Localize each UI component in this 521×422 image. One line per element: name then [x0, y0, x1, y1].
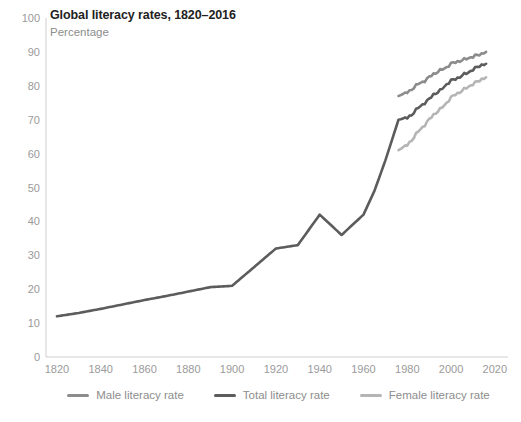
- legend-item[interactable]: Female literacy rate: [360, 389, 490, 401]
- x-axis-tick: 1880: [176, 364, 200, 375]
- y-axis-tick: 100: [6, 13, 40, 24]
- y-axis-tick: 10: [6, 318, 40, 329]
- y-axis-tick: 30: [6, 250, 40, 261]
- chart-legend: Male literacy rateTotal literacy rateFem…: [46, 389, 511, 401]
- y-axis-tick: 60: [6, 148, 40, 159]
- x-axis-tick: 1940: [307, 364, 331, 375]
- series-line: [57, 64, 486, 317]
- literacy-rates-chart: Global literacy rates, 1820–2016 Percent…: [0, 0, 521, 422]
- y-axis-tick: 0: [6, 352, 40, 363]
- x-axis-tick: 2000: [439, 364, 463, 375]
- y-axis-tick: 50: [6, 182, 40, 193]
- legend-label: Female literacy rate: [389, 389, 490, 401]
- y-axis-tick: 40: [6, 216, 40, 227]
- x-axis-tick: 1920: [264, 364, 288, 375]
- x-axis-tick: 1980: [395, 364, 419, 375]
- y-axis-tick: 20: [6, 284, 40, 295]
- legend-label: Male literacy rate: [96, 389, 184, 401]
- x-axis-tick: 2020: [483, 364, 507, 375]
- y-axis-tick-labels: 0102030405060708090100: [0, 18, 40, 357]
- y-axis-tick: 80: [6, 80, 40, 91]
- legend-item[interactable]: Total literacy rate: [214, 389, 330, 401]
- x-axis-tick: 1960: [351, 364, 375, 375]
- x-axis-tick: 1840: [88, 364, 112, 375]
- plot-area: [46, 18, 508, 357]
- legend-label: Total literacy rate: [243, 389, 330, 401]
- chart-series-lines: [46, 18, 508, 357]
- legend-swatch-icon: [360, 394, 382, 397]
- legend-swatch-icon: [67, 394, 89, 397]
- legend-item[interactable]: Male literacy rate: [67, 389, 184, 401]
- x-axis-tick: 1900: [220, 364, 244, 375]
- x-axis-tick: 1860: [132, 364, 156, 375]
- y-axis-tick: 90: [6, 46, 40, 57]
- x-axis-tick-labels: 1820184018601880190019201940196019802000…: [46, 364, 508, 380]
- legend-swatch-icon: [214, 394, 236, 397]
- x-axis-tick: 1820: [45, 364, 69, 375]
- y-axis-tick: 70: [6, 114, 40, 125]
